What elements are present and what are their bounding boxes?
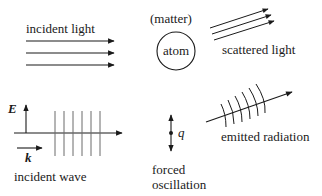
- incident-wave-group: E k incident wave: [7, 101, 122, 184]
- incident-light-label: incident light: [26, 21, 95, 36]
- radiation-wavefront-arc: [228, 100, 234, 124]
- incident-light-group: incident light: [26, 21, 114, 65]
- atom-group: (matter) atom: [150, 11, 195, 70]
- atom-label: atom: [163, 43, 189, 58]
- forced-oscillation-label-line2: oscillation: [152, 177, 207, 192]
- radiation-wavefront-arc: [242, 92, 250, 119]
- scattering-diagram: incident light (matter) atom scattered l…: [0, 0, 322, 196]
- incident-wave-label: incident wave: [14, 169, 87, 184]
- matter-label: (matter): [150, 11, 192, 26]
- radiation-wavefront-arc: [235, 96, 242, 122]
- forced-oscillation-group: q forced oscillation: [152, 115, 207, 192]
- scattered-light-label: scattered light: [222, 42, 296, 57]
- emitted-radiation-label: emitted radiation: [221, 129, 310, 144]
- charge-dot-icon: [169, 131, 173, 135]
- forced-oscillation-label-line1: forced: [152, 162, 186, 177]
- scattered-light-group: scattered light: [210, 9, 296, 57]
- emitted-radiation-group: emitted radiation: [206, 84, 310, 144]
- electric-field-label: E: [7, 101, 17, 116]
- wavevector-label: k: [25, 150, 32, 165]
- radiation-wavefront-arc: [249, 88, 258, 116]
- charge-label: q: [178, 125, 185, 140]
